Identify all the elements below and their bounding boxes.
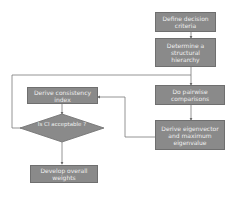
node-define-criteria: Define decision criteria — [155, 12, 216, 32]
node-eigenvector: Derive eigenvector and maximum eigenvalu… — [155, 120, 225, 150]
node-label: Derive eigenvector and maximum eigenvalu… — [158, 125, 222, 146]
node-label: Develop overall weights — [33, 167, 95, 181]
decision-diamond — [20, 114, 104, 142]
node-pairwise-comparisons: Do pairwise comparisons — [155, 85, 225, 105]
decision-label: Is CI acceptable ? — [37, 121, 87, 128]
node-structural-hierarchy: Determine a structural hierarchy — [155, 38, 216, 67]
node-label: Derive consistency index — [30, 89, 95, 103]
node-consistency-index: Derive consistency index — [27, 87, 98, 104]
node-label: Define decision criteria — [158, 15, 213, 29]
node-overall-weights: Develop overall weights — [30, 165, 98, 183]
node-label: Determine a structural hierarchy — [158, 42, 213, 63]
node-label: Do pairwise comparisons — [158, 88, 222, 102]
arrow-eigenvector-to-ci — [98, 97, 155, 137]
